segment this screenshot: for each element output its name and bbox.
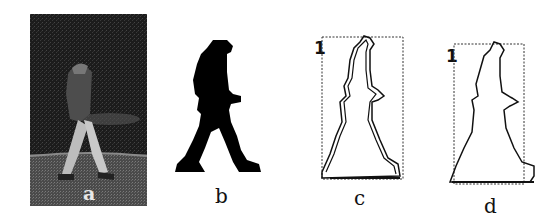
panel-c-contour: 1 c (310, 30, 410, 220)
panel-d-contour: 1 d (442, 36, 542, 223)
walking-person-photo (30, 14, 147, 206)
contour-figure-d (442, 36, 542, 191)
panel-label-d: d (484, 196, 497, 216)
panel-a-photo: a (30, 14, 147, 206)
panel-label-c: c (354, 188, 365, 208)
panel-b-silhouette: b (175, 38, 270, 216)
panel-label-a: a (83, 184, 95, 203)
contour-figure-c (310, 30, 410, 185)
silhouette-figure (175, 38, 270, 178)
panel-label-b: b (215, 186, 228, 206)
